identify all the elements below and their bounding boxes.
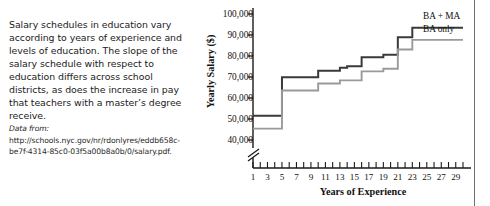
x-tick-label: 11 bbox=[321, 172, 330, 182]
x-tick-label: 7 bbox=[294, 172, 299, 182]
panel-divider bbox=[474, 0, 475, 206]
x-tick-label: 13 bbox=[335, 172, 344, 182]
chart-figure: Yearly Salary ($) Years of Experience 40… bbox=[191, 0, 474, 206]
series-legend-label: BA only bbox=[423, 24, 454, 34]
x-tick-label: 9 bbox=[309, 172, 314, 182]
x-tick-label: 3 bbox=[265, 172, 270, 182]
x-tick-label: 21 bbox=[393, 172, 402, 182]
x-tick-label: 29 bbox=[451, 172, 460, 182]
x-tick-label: 5 bbox=[280, 172, 285, 182]
series-legend-label: BA + MA bbox=[423, 11, 460, 21]
caption-block: Salary schedules in education vary accor… bbox=[9, 18, 187, 157]
x-tick-label: 27 bbox=[437, 172, 446, 182]
x-tick-label: 1 bbox=[251, 172, 256, 182]
x-tick-label: 15 bbox=[350, 172, 359, 182]
caption-source-url: http://schools.nyc.gov/nr/rdonlyres/eddb… bbox=[9, 136, 180, 156]
x-tick-label: 23 bbox=[408, 172, 417, 182]
x-tick-label: 25 bbox=[422, 172, 431, 182]
x-tick-label: 19 bbox=[379, 172, 388, 182]
caption-source-lead: Data from: bbox=[9, 124, 49, 133]
x-tick-label: 17 bbox=[364, 172, 373, 182]
caption-source: Data from: http://schools.nyc.gov/nr/rdo… bbox=[9, 123, 187, 157]
figure-root: Salary schedules in education vary accor… bbox=[0, 0, 490, 206]
caption-body: Salary schedules in education vary accor… bbox=[9, 18, 187, 122]
series-line bbox=[253, 40, 463, 129]
series-line bbox=[253, 28, 463, 116]
